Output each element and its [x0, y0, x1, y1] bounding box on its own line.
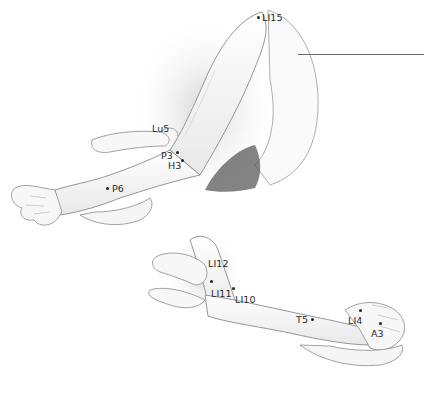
label-li10: LI10	[235, 295, 256, 305]
point-marker-li15	[257, 16, 260, 19]
label-li4: LI4	[348, 316, 362, 326]
point-marker-li4	[359, 309, 362, 312]
point-marker-a3	[379, 322, 382, 325]
point-marker-li11	[210, 280, 213, 283]
label-li12: LI12	[208, 259, 229, 269]
label-t5: T5	[296, 315, 308, 325]
label-li15: LI15	[262, 13, 283, 23]
point-marker-p3	[176, 151, 179, 154]
point-marker-p6	[106, 187, 109, 190]
leader-line	[298, 54, 424, 55]
label-lu5: Lu5	[152, 124, 170, 134]
label-p6: P6	[112, 184, 124, 194]
label-h3: H3	[168, 161, 181, 171]
point-marker-t5	[311, 318, 314, 321]
arm-illustration	[0, 0, 424, 397]
point-marker-h3	[181, 159, 184, 162]
acupressure-diagram: LI15 Lu5 P3 H3 P6 LI12 LI11 LI10 T5 LI4 …	[0, 0, 424, 397]
label-a3: A3	[371, 329, 384, 339]
label-li11: LI11	[211, 289, 232, 299]
point-marker-li10	[232, 287, 235, 290]
